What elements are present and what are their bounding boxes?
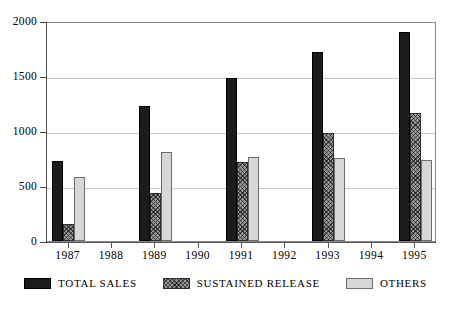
plot-area [46,22,436,242]
legend-item-others: OTHERS [346,277,427,289]
x-tick-1991 [241,243,242,248]
bar-chart: 2000 1500 1000 500 0 1987198819891990199… [0,0,451,310]
bar-total-sales-1995 [399,32,410,241]
x-tick-1993 [328,243,329,248]
bar-others-1995 [421,160,432,241]
bar-total-sales-1991 [226,78,237,241]
y-tick-1500 [40,77,47,78]
bar-sustained-release-1993 [323,133,334,241]
x-axis-label-1990: 1990 [176,250,220,262]
y-tick-500 [40,187,47,188]
bar-total-sales-1989 [139,106,150,241]
y-tick-0 [40,242,47,243]
x-axis-label-1995: 1995 [392,250,436,262]
y-axis-label-1000: 1000 [0,126,37,138]
bar-total-sales-1987 [52,161,63,241]
bar-others-1989 [161,152,172,241]
x-tick-1989 [154,243,155,248]
x-axis-label-1992: 1992 [262,250,306,262]
x-axis-label-1991: 1991 [219,250,263,262]
x-tick-1987 [68,243,69,248]
bar-total-sales-1993 [312,52,323,241]
bar-sustained-release-1987 [63,224,74,241]
y-axis-label-2000: 2000 [0,16,37,28]
x-axis-label-1988: 1988 [89,250,133,262]
legend-swatch-total-sales-icon [24,278,51,289]
y-axis-label-0: 0 [0,236,37,248]
y-tick-1000 [40,132,47,133]
bar-others-1987 [74,177,85,241]
y-axis-label-500: 500 [0,181,37,193]
x-axis-label-1993: 1993 [306,250,350,262]
y-tick-2000 [40,22,47,23]
bar-others-1993 [334,158,345,241]
x-tick-1990 [198,243,199,248]
x-tick-1995 [414,243,415,248]
bar-sustained-release-1991 [237,162,248,241]
legend-item-sustained-release: SUSTAINED RELEASE [163,277,320,289]
x-axis-label-1994: 1994 [349,250,393,262]
legend-item-total-sales: TOTAL SALES [24,277,137,289]
chart-legend: TOTAL SALES SUSTAINED RELEASE OTHERS [0,277,451,289]
bar-sustained-release-1989 [150,193,161,241]
legend-label-sustained-release: SUSTAINED RELEASE [197,277,320,289]
x-axis-label-1987: 1987 [46,250,90,262]
bar-sustained-release-1995 [410,113,421,241]
x-axis-label-1989: 1989 [132,250,176,262]
x-tick-1988 [111,243,112,248]
y-axis-label-1500: 1500 [0,71,37,83]
bar-others-1991 [248,157,259,241]
legend-label-others: OTHERS [380,277,427,289]
legend-label-total-sales: TOTAL SALES [58,277,137,289]
x-tick-1992 [284,243,285,248]
legend-swatch-sustained-release-icon [163,278,190,289]
legend-swatch-others-icon [346,278,373,289]
bars-layer [47,23,435,241]
x-tick-1994 [371,243,372,248]
